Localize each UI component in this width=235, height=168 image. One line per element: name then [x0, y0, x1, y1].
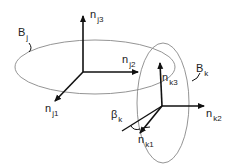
label-nj3: nj3 — [90, 9, 103, 20]
nk1-subscript: k1 — [145, 140, 153, 149]
beta-letter: β — [111, 108, 117, 120]
beta-subscript: k — [118, 115, 122, 124]
body-j-subscript: j — [26, 33, 28, 42]
axis-nj1-arrow — [55, 72, 83, 101]
label-body-j: Bj — [18, 27, 28, 38]
nj3-subscript: j3 — [97, 15, 103, 24]
nk2-letter: n — [206, 107, 212, 119]
nj3-letter: n — [90, 8, 96, 20]
body-j-letter: B — [18, 26, 25, 38]
nj1-letter: n — [45, 102, 51, 114]
axis-nk3-arrow — [160, 63, 162, 106]
label-body-k: Bk — [196, 63, 208, 74]
nk3-letter: n — [162, 71, 168, 83]
beta-arc-tick — [142, 127, 150, 128]
nk1-letter: n — [138, 133, 144, 145]
label-nk2: nk2 — [206, 108, 222, 119]
nj2-letter: n — [122, 53, 128, 65]
nj1-subscript: j1 — [52, 109, 58, 118]
beta-reference-line — [122, 106, 162, 131]
nk2-subscript: k2 — [213, 114, 221, 123]
diagram-canvas — [0, 0, 235, 168]
label-nk1: nk1 — [138, 134, 154, 145]
body-k-leader — [192, 73, 200, 81]
label-nj2: nj2 — [122, 54, 135, 65]
body-k-letter: B — [196, 62, 203, 74]
axis-nk1-arrow — [140, 106, 162, 133]
nj2-subscript: j2 — [129, 60, 135, 69]
label-beta-k: βk — [111, 109, 122, 120]
body-k-subscript: k — [204, 69, 208, 78]
label-nj1: nj1 — [45, 103, 58, 114]
nk3-subscript: k3 — [169, 78, 177, 87]
body-j-ellipse — [15, 40, 175, 94]
label-nk3: nk3 — [162, 72, 178, 83]
